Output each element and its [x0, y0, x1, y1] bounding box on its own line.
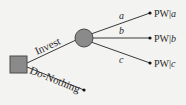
do-nothing-label: Do-Nothing	[28, 64, 82, 95]
outcome-c-endpoint	[148, 61, 151, 64]
pw-prefix: PW|	[154, 8, 171, 19]
pw-var: b	[171, 33, 176, 44]
outcome-a-branch-label: a	[119, 10, 124, 21]
outcome-b-endpoint	[148, 36, 151, 39]
outcome-c-result: PW|c	[154, 58, 176, 69]
do-nothing-endpoint	[82, 88, 85, 91]
outcome-a-endpoint	[148, 11, 151, 14]
pw-var: c	[171, 58, 176, 69]
pw-prefix: PW|	[154, 33, 171, 44]
decision-tree-diagram: Invest Do-Nothing a b c PW|a PW|b PW|c	[0, 0, 186, 105]
chance-node-circle	[75, 29, 93, 47]
outcome-c-branch-label: c	[119, 54, 124, 65]
outcome-b-branch-label: b	[119, 25, 124, 36]
decision-node-square	[10, 56, 27, 73]
pw-prefix: PW|	[154, 58, 171, 69]
pw-var: a	[171, 8, 176, 19]
outcome-a-result: PW|a	[154, 8, 176, 19]
outcome-b-result: PW|b	[154, 33, 176, 44]
